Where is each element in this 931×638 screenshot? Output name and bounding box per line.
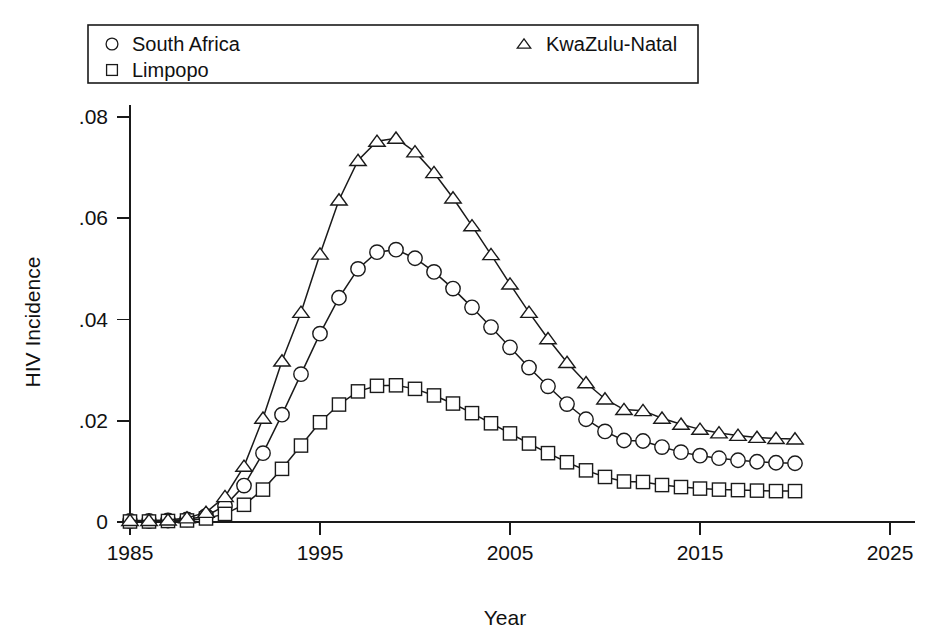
marker-triangle [445,192,461,203]
marker-circle [351,262,365,276]
y-tick-label: .08 [79,105,108,128]
marker-circle [731,453,745,467]
plot-area: 0.02.04.06.08 19851995200520152025 [79,105,915,564]
marker-circle [446,281,460,295]
legend-marker-square [107,65,118,76]
legend: South AfricaLimpopoKwaZulu-Natal [88,25,698,83]
marker-square [275,462,288,475]
marker-triangle [483,248,499,259]
marker-square [484,417,497,430]
marker-square [503,427,516,440]
marker-triangle [692,423,708,434]
marker-circle [636,434,650,448]
marker-circle [560,397,574,411]
marker-circle [712,451,726,465]
series-path [130,250,795,521]
marker-square [465,407,478,420]
marker-circle [522,360,536,374]
marker-circle [693,448,707,462]
y-tick-label: .02 [79,409,108,432]
marker-circle [408,251,422,265]
marker-triangle [559,356,575,367]
marker-square [617,475,630,488]
marker-square [750,484,763,497]
legend-marker-circle [106,38,118,50]
marker-circle [788,456,802,470]
data-series-layer [122,132,803,528]
marker-circle [674,445,688,459]
y-tick-label: .06 [79,206,108,229]
marker-triangle [521,306,537,317]
marker-triangle [236,460,252,471]
marker-circle [541,379,555,393]
marker-square [237,498,250,511]
x-tick-label: 2025 [867,541,914,564]
marker-square [351,385,364,398]
marker-circle [465,300,479,314]
marker-triangle [388,132,404,143]
x-tick-label: 1985 [107,541,154,564]
marker-circle [427,265,441,279]
marker-circle [598,424,612,438]
marker-circle [256,446,270,460]
hiv-incidence-chart: 0.02.04.06.08 19851995200520152025 HIV I… [0,0,931,638]
y-tick-label: .04 [79,308,109,331]
marker-triangle [293,306,309,317]
x-axis-ticks [130,522,890,535]
marker-circle [617,433,631,447]
marker-triangle [673,418,689,429]
marker-triangle [464,220,480,231]
marker-square [446,397,459,410]
marker-triangle [426,166,442,177]
x-tick-label: 2015 [677,541,724,564]
marker-triangle [578,377,594,388]
marker-square [370,379,383,392]
marker-square [408,382,421,395]
marker-triangle [274,355,290,366]
x-tick-label: 2005 [487,541,534,564]
marker-triangle [312,248,328,259]
y-axis-tick-labels: 0.02.04.06.08 [79,105,109,533]
legend-label: KwaZulu-Natal [546,33,677,55]
x-tick-label: 1995 [297,541,344,564]
marker-triangle [331,194,347,205]
marker-square [712,483,725,496]
marker-triangle [654,412,670,423]
marker-circle [579,412,593,426]
marker-triangle [540,332,556,343]
marker-circle [389,242,403,256]
marker-circle [503,340,517,354]
y-axis-title: HIV Incidence [21,257,44,388]
marker-square [731,484,744,497]
marker-square [389,379,402,392]
marker-square [674,480,687,493]
x-axis-tick-labels: 19851995200520152025 [107,541,914,564]
marker-square [427,389,440,402]
marker-circle [484,320,498,334]
marker-square [579,464,592,477]
series-path [130,138,795,520]
marker-circle [313,326,327,340]
marker-triangle [350,154,366,165]
marker-circle [370,245,384,259]
y-axis-ticks [117,117,130,522]
legend-label: South Africa [132,33,241,55]
marker-square [655,478,668,491]
x-axis-title: Year [484,606,526,629]
marker-circle [237,478,251,492]
y-tick-label: 0 [96,510,108,533]
marker-square [636,475,649,488]
marker-square [693,482,706,495]
legend-label: Limpopo [132,59,209,81]
marker-triangle [502,278,518,289]
marker-circle [332,291,346,305]
marker-circle [769,456,783,470]
marker-square [541,447,554,460]
marker-square [218,507,231,520]
marker-triangle [217,490,233,501]
marker-square [332,398,345,411]
marker-circle [294,367,308,381]
marker-square [522,437,535,450]
marker-square [256,483,269,496]
series-kwazulu-natal [122,132,803,525]
